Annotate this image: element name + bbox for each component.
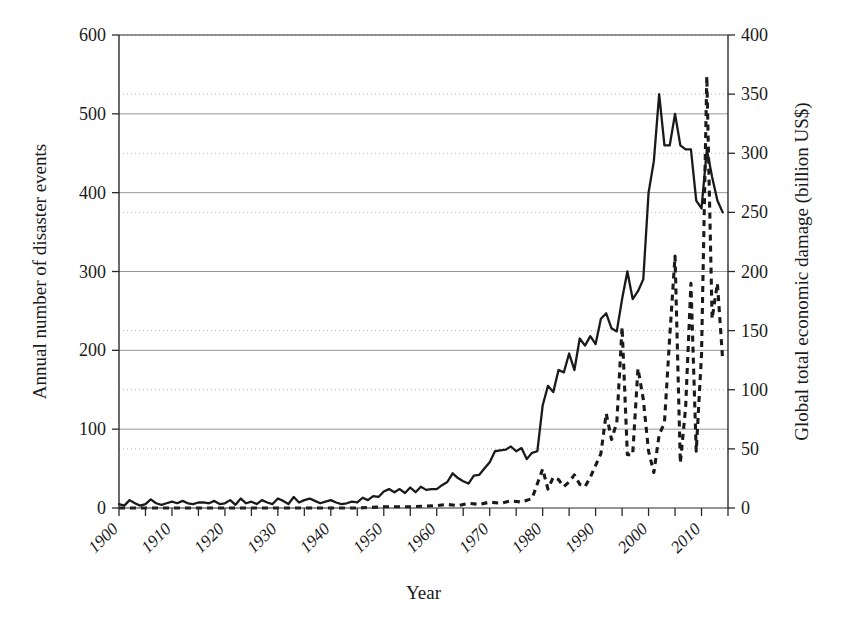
tick-label-left: 0: [97, 498, 106, 518]
tick-label-right: 50: [741, 439, 759, 459]
dual-axis-line-chart: 0100200300400500600 05010015020025030035…: [0, 0, 852, 639]
tick-label-left: 100: [79, 419, 106, 439]
tick-label-right: 250: [741, 202, 768, 222]
tick-label-left: 300: [79, 262, 106, 282]
y-axis-left-title: Annual number of disaster events: [29, 144, 50, 399]
tick-label-right: 100: [741, 380, 768, 400]
tick-label-left: 500: [79, 104, 106, 124]
tick-label-right: 0: [741, 498, 750, 518]
y-axis-right-title: Global total economic damage (billion US…: [791, 102, 813, 440]
tick-label-right: 350: [741, 84, 768, 104]
tick-label-left: 200: [79, 340, 106, 360]
tick-label-right: 150: [741, 321, 768, 341]
tick-label-right: 400: [741, 25, 768, 45]
chart-figure: 0100200300400500600 05010015020025030035…: [0, 0, 852, 639]
tick-label-right: 200: [741, 262, 768, 282]
x-axis-title: Year: [406, 582, 442, 603]
tick-label-right: 300: [741, 143, 768, 163]
tick-label-left: 400: [79, 183, 106, 203]
tick-label-left: 600: [79, 25, 106, 45]
